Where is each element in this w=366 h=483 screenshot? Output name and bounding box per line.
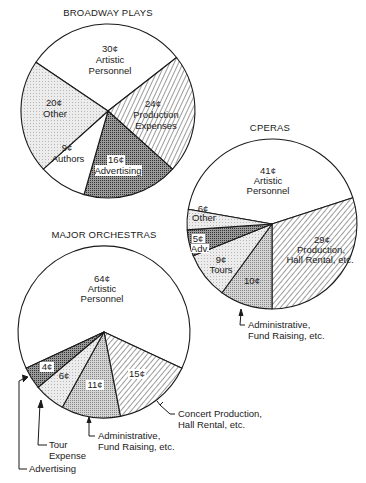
- broadway-title: BROADWAY PLAYS: [63, 7, 153, 18]
- orchestras-advertising-callout: Advertising: [29, 463, 76, 474]
- operas-adv-label: Adv.: [191, 243, 209, 254]
- operas-admin-callout-arrow: [239, 309, 245, 325]
- operas-admin-value: 10¢: [244, 275, 260, 286]
- operas-other-label: Other: [192, 212, 216, 223]
- operas-admin-callout-1: Administrative,: [248, 319, 310, 330]
- operas-admin-callout-2: Fund Raising, etc.: [248, 330, 325, 341]
- orchestras-tour-callout-1: Tour: [49, 439, 67, 450]
- operas-tours-label: Tours: [209, 264, 232, 275]
- broadway-production-value: 24¢: [145, 98, 161, 109]
- broadway-artistic-label2: Personnel: [89, 65, 132, 76]
- orchestras-production-callout-1: Concert Production,: [178, 408, 262, 419]
- broadway-production-label2: Expenses: [135, 120, 177, 131]
- orchestras-production-callout-2: Hall Rental, etc.: [178, 419, 245, 430]
- broadway-advertising-value: 16¢: [108, 154, 124, 165]
- orchestras-tour-value: 6¢: [59, 370, 70, 381]
- broadway-pie: BROADWAY PLAYS 30¢ Artistic Personnel 24…: [21, 7, 195, 198]
- broadway-artistic-value: 30¢: [102, 43, 118, 54]
- operas-title: CPERAS: [250, 122, 290, 133]
- orchestras-admin-callout-2: Fund Raising, etc.: [98, 441, 175, 452]
- pie-charts-figure: BROADWAY PLAYS 30¢ Artistic Personnel 24…: [0, 0, 366, 483]
- orchestras-admin-value: 11¢: [87, 379, 102, 390]
- orchestras-title: MAJOR ORCHESTRAS: [51, 229, 156, 240]
- broadway-other-value: 20¢: [46, 97, 62, 108]
- orchestras-artistic-label2: Personnel: [81, 293, 124, 304]
- operas-production-label2: Hall Rental, etc.: [286, 254, 353, 265]
- broadway-advertising-label: Advertising: [95, 165, 142, 176]
- broadway-other-label: Other: [43, 108, 67, 119]
- operas-artistic-label2: Personnel: [247, 185, 290, 196]
- orchestras-tour-callout-2: Expense: [49, 450, 86, 461]
- broadway-production-label1: Production: [133, 109, 178, 120]
- orchestras-advertising-value: 4¢: [42, 361, 53, 372]
- broadway-artistic-label1: Artistic: [96, 54, 125, 65]
- orchestras-admin-callout-1: Administrative,: [98, 430, 160, 441]
- broadway-authors-label: Authors: [52, 153, 85, 164]
- broadway-authors-value: 9¢: [62, 142, 73, 153]
- orchestras-production-value: 15¢: [129, 368, 145, 379]
- operas-pie: CPERAS 41¢ Artistic Personnel 29¢ Produc…: [187, 122, 357, 341]
